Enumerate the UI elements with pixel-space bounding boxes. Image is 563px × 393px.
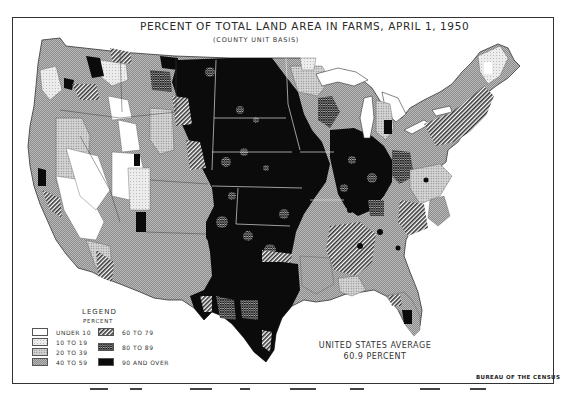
map-subtitle: (COUNTY UNIT BASIS): [213, 36, 299, 44]
swatch-diagonal-hatch-icon: [98, 328, 114, 336]
legend-subtitle: PERCENT: [83, 318, 113, 324]
map-title: PERCENT OF TOTAL LAND AREA IN FARMS, APR…: [140, 20, 500, 32]
swatch-solid-icon: [98, 358, 114, 366]
legend-item-90-over: 90 AND OVER: [98, 358, 169, 366]
cropped-caption-fragments: [90, 388, 486, 390]
us-average-annotation: UNITED STATES AVERAGE 60.9 PERCENT: [315, 340, 435, 362]
legend-item-80-89: 80 TO 89: [98, 343, 153, 351]
average-line2: 60.9 PERCENT: [315, 351, 435, 362]
legend-item-40-59: 40 TO 59: [32, 358, 87, 366]
legend-label: 40 TO 59: [56, 359, 87, 366]
swatch-crosshatch-icon: [98, 343, 114, 351]
average-line1: UNITED STATES AVERAGE: [315, 340, 435, 351]
legend-item-60-79: 60 TO 79: [98, 328, 153, 336]
legend-label: UNDER 10: [56, 329, 91, 336]
legend-label: 90 AND OVER: [122, 359, 169, 366]
legend-item-under-10: UNDER 10: [32, 328, 91, 336]
source-credit: BUREAU OF THE CENSUS: [476, 374, 560, 380]
swatch-dense-stipple-icon: [32, 358, 48, 366]
legend-title: LEGEND: [82, 308, 117, 316]
legend-label: 10 TO 19: [56, 339, 87, 346]
legend-label: 20 TO 39: [56, 349, 87, 356]
legend-item-20-39: 20 TO 39: [32, 348, 87, 356]
legend: LEGEND PERCENT UNDER 10 10 TO 19 20 TO 3…: [30, 306, 180, 376]
swatch-blank-icon: [32, 328, 48, 336]
legend-label: 80 TO 89: [122, 344, 153, 351]
legend-label: 60 TO 79: [122, 329, 153, 336]
legend-item-10-19: 10 TO 19: [32, 338, 87, 346]
swatch-medium-stipple-icon: [32, 348, 48, 356]
swatch-light-stipple-icon: [32, 338, 48, 346]
